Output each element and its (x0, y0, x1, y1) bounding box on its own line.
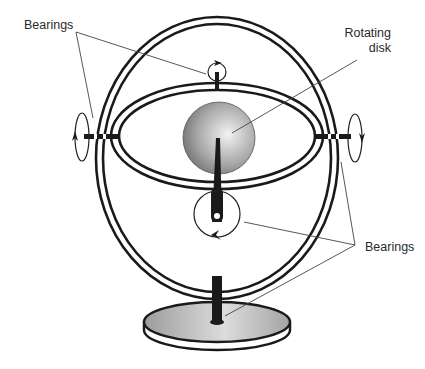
stand-post (210, 276, 224, 325)
rotation-arrow-icon (211, 230, 221, 240)
label-rotating-disk-line2: disk (327, 41, 391, 56)
label-rotating-disk: Rotating disk (327, 26, 391, 56)
top-bearing (208, 60, 226, 90)
bottom-bearing (194, 188, 240, 240)
label-bearings-top: Bearings (24, 18, 73, 33)
label-rotating-disk-line1: Rotating (327, 26, 391, 41)
label-bearings-bottom: Bearings (365, 240, 414, 255)
